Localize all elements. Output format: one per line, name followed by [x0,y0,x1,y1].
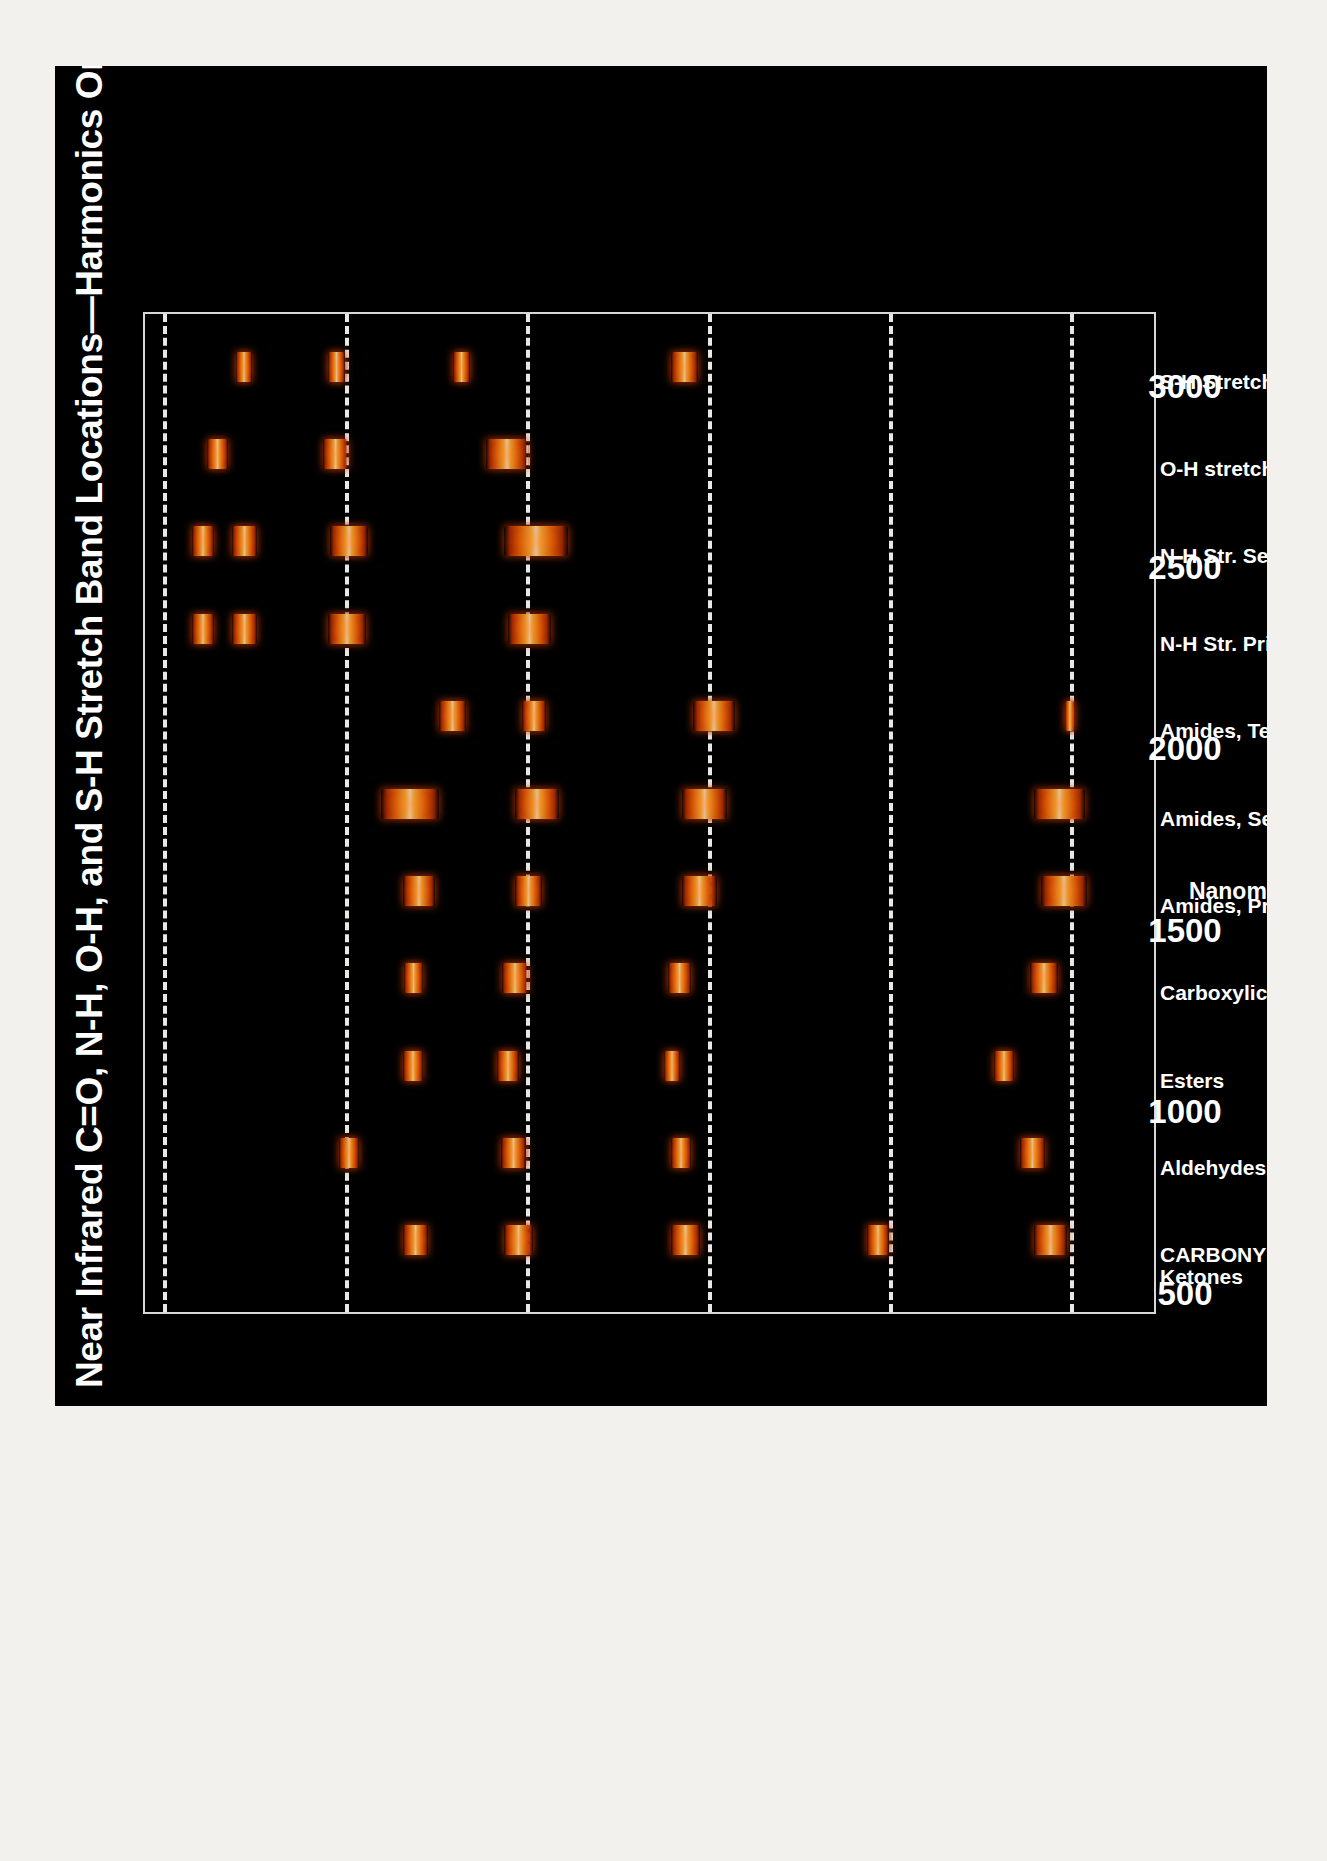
x-tick-1500: 1500 [1148,912,1221,950]
band [682,876,716,906]
band [339,1138,359,1168]
category-label-8: N-H Str. Secondary [1160,546,1267,568]
category-label-1: Aldehydes [1160,1157,1266,1179]
band [671,1225,700,1255]
band [192,527,214,557]
band [501,1138,526,1168]
band [236,352,252,382]
band [1041,876,1086,906]
band [192,614,214,644]
category-label-7: N-H Str. Primary [1160,633,1267,655]
rotated-chart-canvas: Near Infrared C=O, N-H, O-H, and S-H Str… [55,66,1267,1406]
band [508,614,552,644]
band [994,1051,1014,1081]
band [330,527,368,557]
category-label-0: CARBONYL C=O STR. Ketones [1160,1244,1267,1289]
band [486,439,528,469]
band [1030,963,1057,993]
band [522,701,546,731]
category-label-10: S-H Stretch (all types) [1160,371,1267,393]
band [502,963,527,993]
category-label-4: Amides, Primary [1160,895,1267,917]
band [323,439,348,469]
band [671,1138,691,1168]
band [403,1225,428,1255]
band [504,1225,533,1255]
band [232,527,257,557]
gridline-2500 [889,314,893,1312]
category-label-2: Esters [1160,1070,1224,1092]
band [232,614,257,644]
band [404,963,422,993]
band [439,701,466,731]
band [515,876,542,906]
band [1065,701,1075,731]
band [504,527,568,557]
band [664,1051,680,1081]
band [328,352,344,382]
band [403,876,436,906]
chart-poster: Near Infrared C=O, N-H, O-H, and S-H Str… [55,66,1267,1406]
band [328,614,366,644]
band [453,352,469,382]
band [867,1225,889,1255]
plot-area [143,312,1156,1314]
category-label-9: O-H stretch (all types) [1160,458,1267,480]
band [671,352,698,382]
band [693,701,735,731]
band [668,963,692,993]
band [1034,1225,1067,1255]
band [403,1051,423,1081]
category-label-6: Amides, Tertiary [1160,720,1267,742]
category-label-5: Amides, Secondary [1160,808,1267,830]
band [682,789,727,819]
band [207,439,229,469]
band [515,789,559,819]
band [1020,1138,1045,1168]
band [497,1051,519,1081]
x-tick-1000: 1000 [1148,1093,1221,1131]
gridline-500 [163,314,167,1312]
category-label-3: Carboxylic Acids [1160,982,1267,1004]
band [381,789,439,819]
chart-title: Near Infrared C=O, N-H, O-H, and S-H Str… [69,66,111,1406]
band [1034,789,1085,819]
